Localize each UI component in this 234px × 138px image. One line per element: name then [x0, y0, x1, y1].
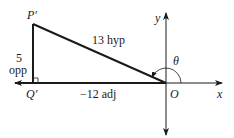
- point-label-p-prime: P′: [26, 8, 37, 22]
- angle-theta-arc: [152, 68, 181, 83]
- hypotenuse-label: 13 hyp: [92, 33, 125, 47]
- angle-theta-label: θ: [173, 54, 179, 68]
- point-label-q-prime: Q′: [26, 87, 38, 101]
- trig-triangle-diagram: P′ Q′ O x y 13 hyp 5 opp −12 adj θ: [0, 0, 234, 138]
- adjacent-label: −12 adj: [80, 87, 116, 101]
- x-axis-label: x: [216, 87, 223, 101]
- opposite-word-label: opp: [9, 63, 27, 77]
- point-label-origin: O: [170, 87, 179, 101]
- y-axis-label: y: [154, 11, 161, 25]
